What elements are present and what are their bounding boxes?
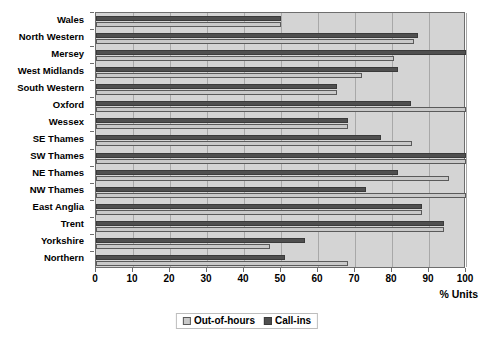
bar-group <box>96 98 464 115</box>
y-axis-label-north-western: North Western <box>0 32 84 42</box>
x-axis-tick-60 <box>317 268 318 272</box>
x-axis-tick-10 <box>132 268 133 272</box>
x-axis-tick-100 <box>465 268 466 272</box>
bar-group <box>96 81 464 98</box>
bar-out-of-hours <box>96 210 422 215</box>
y-axis-labels: WalesNorth WesternMerseyWest MidlandsSou… <box>0 12 91 268</box>
x-axis-label-90: 90 <box>422 273 433 284</box>
x-axis-tick-70 <box>354 268 355 272</box>
x-axis: 0102030405060708090100 <box>95 268 465 290</box>
y-axis-tick <box>90 183 94 184</box>
y-axis-label-south-western: South Western <box>0 83 84 93</box>
y-axis-tick <box>90 114 94 115</box>
bar-out-of-hours <box>96 244 270 249</box>
bar-out-of-hours <box>96 56 394 61</box>
bar-group <box>96 218 464 235</box>
bar-call-ins <box>96 153 466 158</box>
y-axis-label-wales: Wales <box>0 15 84 25</box>
x-axis-label-70: 70 <box>348 273 359 284</box>
bar-group <box>96 64 464 81</box>
bar-call-ins <box>96 255 285 260</box>
x-axis-label-40: 40 <box>237 273 248 284</box>
bar-call-ins <box>96 238 305 243</box>
gridline-100 <box>466 13 467 267</box>
x-axis-label-10: 10 <box>126 273 137 284</box>
x-axis-label-50: 50 <box>274 273 285 284</box>
bar-out-of-hours <box>96 90 337 95</box>
bar-out-of-hours <box>96 261 348 266</box>
y-axis-tick <box>90 251 94 252</box>
x-axis-tick-0 <box>95 268 96 272</box>
x-axis-label-30: 30 <box>200 273 211 284</box>
legend-label: Out-of-hours <box>194 315 255 326</box>
bar-rows <box>96 13 464 267</box>
y-axis-tick <box>90 12 94 13</box>
bar-call-ins <box>96 84 337 89</box>
y-axis-label-sw-thames: SW Thames <box>0 151 84 161</box>
y-axis-label-east-anglia: East Anglia <box>0 202 84 212</box>
x-axis-label-80: 80 <box>385 273 396 284</box>
chart-legend: Out-of-hoursCall-ins <box>176 313 318 329</box>
bar-call-ins <box>96 204 422 209</box>
y-axis-label-oxford: Oxford <box>0 100 84 110</box>
y-axis-tick <box>90 149 94 150</box>
y-axis-tick <box>90 63 94 64</box>
legend-label: Call-ins <box>275 315 311 326</box>
y-axis-label-yorkshire: Yorkshire <box>0 236 84 246</box>
y-axis-label-northern: Northern <box>0 253 84 263</box>
y-axis-tick <box>90 46 94 47</box>
bar-group <box>96 132 464 149</box>
bar-group <box>96 201 464 218</box>
bar-call-ins <box>96 170 398 175</box>
bar-out-of-hours <box>96 176 449 181</box>
x-axis-tick-30 <box>206 268 207 272</box>
y-axis-label-mersey: Mersey <box>0 49 84 59</box>
bar-call-ins <box>96 33 418 38</box>
bar-out-of-hours <box>96 73 362 78</box>
legend-swatch-icon <box>183 317 191 325</box>
y-axis-tick <box>90 29 94 30</box>
y-axis-label-trent: Trent <box>0 219 84 229</box>
bar-call-ins <box>96 16 281 21</box>
legend-item-call: Call-ins <box>264 315 311 326</box>
legend-swatch-icon <box>264 317 272 325</box>
bar-out-of-hours <box>96 39 414 44</box>
x-axis-label-60: 60 <box>311 273 322 284</box>
bar-group <box>96 252 464 269</box>
y-axis-label-ne-thames: NE Thames <box>0 168 84 178</box>
bar-group <box>96 47 464 64</box>
legend-item-out: Out-of-hours <box>183 315 255 326</box>
x-axis-label-100: 100 <box>457 273 474 284</box>
bar-out-of-hours <box>96 141 412 146</box>
bar-out-of-hours <box>96 107 466 112</box>
bar-call-ins <box>96 187 366 192</box>
y-axis-tick <box>90 97 94 98</box>
y-axis-label-wessex: Wessex <box>0 117 84 127</box>
bar-group <box>96 167 464 184</box>
bar-call-ins <box>96 135 381 140</box>
x-axis-tick-20 <box>169 268 170 272</box>
bar-call-ins <box>96 118 348 123</box>
x-axis-label-20: 20 <box>163 273 174 284</box>
y-axis-tick <box>90 131 94 132</box>
bar-call-ins <box>96 50 466 55</box>
bar-out-of-hours <box>96 159 466 164</box>
plot-area <box>95 12 465 268</box>
y-axis-tick <box>90 80 94 81</box>
bar-call-ins <box>96 221 444 226</box>
bar-chart: WalesNorth WesternMerseyWest MidlandsSou… <box>0 0 494 348</box>
y-axis-tick <box>90 200 94 201</box>
y-axis-tick <box>90 166 94 167</box>
bar-group <box>96 30 464 47</box>
y-axis-label-nw-thames: NW Thames <box>0 185 84 195</box>
x-axis-title: % Units <box>0 288 478 300</box>
bar-out-of-hours <box>96 193 466 198</box>
x-axis-tick-50 <box>280 268 281 272</box>
bar-call-ins <box>96 67 398 72</box>
x-axis-label-0: 0 <box>92 273 98 284</box>
y-axis-label-se-thames: SE Thames <box>0 134 84 144</box>
y-axis-tick <box>90 234 94 235</box>
bar-call-ins <box>96 101 411 106</box>
bar-out-of-hours <box>96 124 348 129</box>
caption-remnant <box>6 338 476 345</box>
